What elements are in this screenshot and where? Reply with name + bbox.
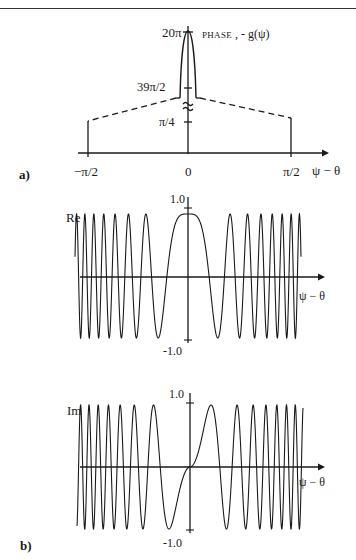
xtick-label-neg-pi-2: −π/2 xyxy=(74,165,98,178)
panel-a-xlabel: ψ − θ xyxy=(312,164,340,177)
im-ybottom-label: -1.0 xyxy=(163,537,182,549)
im-ytop-label: 1.0 xyxy=(169,388,184,400)
re-series-label: Re xyxy=(66,211,80,224)
panel-im-plot xyxy=(77,393,325,533)
xtick-label-0: 0 xyxy=(185,165,192,178)
re-ytop-label: 1.0 xyxy=(170,193,185,205)
panel-a-plot xyxy=(78,26,329,157)
im-x-axis-arrow-icon xyxy=(318,464,325,471)
ylabel-g-psi: , - g(ψ) xyxy=(232,27,270,41)
im-xlabel: ψ − θ xyxy=(299,476,325,488)
panel-a-ylabel: PHASE , - g(ψ) xyxy=(202,28,270,40)
re-ybottom-label: -1.0 xyxy=(163,345,182,357)
ylabel-phase: PHASE xyxy=(202,30,232,40)
re-x-axis-arrow-icon xyxy=(318,274,325,281)
x-axis-arrow-icon xyxy=(322,150,329,157)
re-xlabel: ψ − θ xyxy=(299,290,325,302)
panel-b-label: b) xyxy=(20,539,32,552)
im-series-label: Im xyxy=(67,404,81,417)
phase-dashed-right xyxy=(200,98,291,118)
xtick-label-pi-2: π/2 xyxy=(283,165,300,178)
ytick-label-20pi: 20π xyxy=(162,26,182,39)
panel-re-plot xyxy=(75,197,325,343)
panel-a-label: a) xyxy=(19,168,30,181)
ytick-label-pi-4: π/4 xyxy=(159,116,174,128)
ytick-label-39pi-2: 39π/2 xyxy=(137,81,166,94)
